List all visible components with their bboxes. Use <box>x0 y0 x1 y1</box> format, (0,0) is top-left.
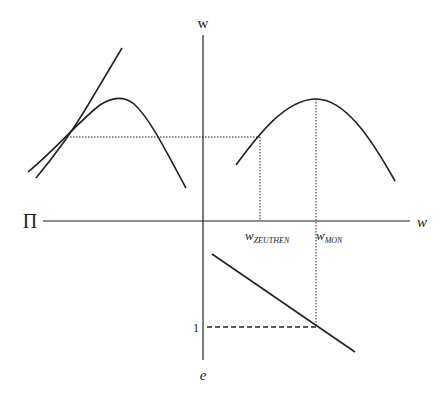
diagram-canvas: w e Π w wZEUTHEN wMON 1 <box>0 0 444 399</box>
effort-wage-line <box>212 254 355 352</box>
w-mon-label: wMON <box>316 228 343 245</box>
w-mon-base: w <box>316 228 325 243</box>
effort-one-tick-label: 1 <box>193 321 199 335</box>
horizontal-axis-left-label: Π <box>23 210 37 232</box>
horizontal-axis-right-label: w <box>417 214 427 230</box>
w-zeuthen-subscript: ZEUTHEN <box>254 236 290 245</box>
left-profit-hump-curve <box>28 98 186 188</box>
vertical-axis-top-label: w <box>198 15 209 31</box>
diagram-svg: w e Π w wZEUTHEN wMON 1 <box>0 0 444 399</box>
left-tangent-curve <box>36 48 122 178</box>
w-zeuthen-label: wZEUTHEN <box>245 228 290 245</box>
w-mon-subscript: MON <box>324 236 343 245</box>
vertical-axis-bottom-label: e <box>200 367 207 383</box>
w-zeuthen-base: w <box>245 228 254 243</box>
